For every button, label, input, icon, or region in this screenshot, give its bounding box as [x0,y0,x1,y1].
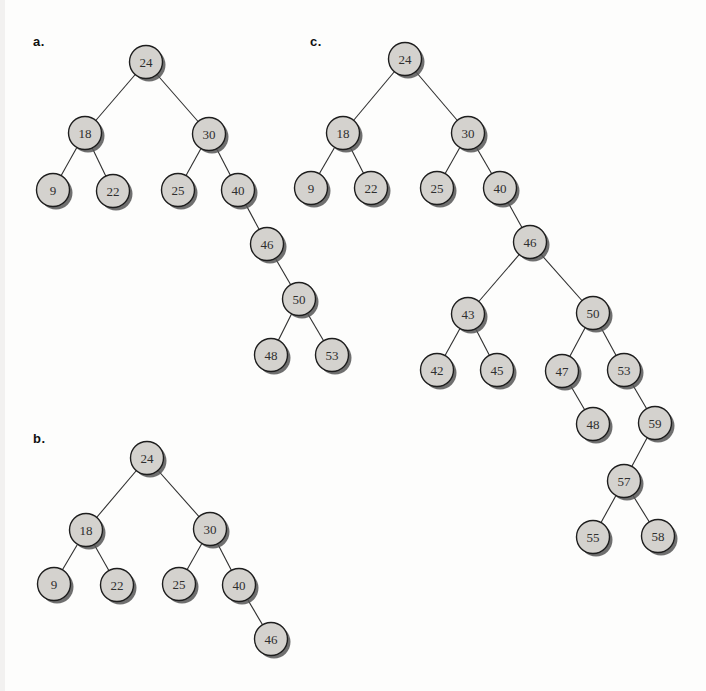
tree-node: 22 [355,172,391,208]
node-value: 24 [399,52,413,67]
tree-node: 45 [481,354,517,390]
node-value: 53 [326,348,339,363]
tree-node: 9 [37,174,73,210]
node-value: 50 [587,306,600,321]
tree-node: 25 [163,568,199,604]
node-value: 25 [172,183,185,198]
tree-node: 25 [421,172,457,208]
node-value: 59 [649,416,662,431]
tree-node: 48 [577,408,613,444]
node-value: 46 [261,237,275,252]
tree-diagram-canvas: 2418309222540465048532418309222540462418… [0,0,706,691]
node-value: 40 [233,578,246,593]
tree-node: 24 [130,46,166,82]
tree-node: 43 [452,298,488,334]
tree-node: 18 [327,117,363,153]
node-value: 40 [232,183,245,198]
tree-c: 2418309222540464350424547534859575558 [295,43,678,557]
node-value: 47 [556,364,570,379]
tree-node: 46 [514,226,550,262]
tree-node: 40 [222,174,258,210]
tree-node: 9 [38,568,74,604]
node-value: 18 [80,523,93,538]
node-value: 55 [587,530,600,545]
tree-node: 53 [316,339,352,375]
node-value: 22 [107,184,120,199]
figure-label-a: a. [33,34,45,49]
tree-a: 241830922254046504853 [37,46,352,375]
tree-b: 241830922254046 [38,442,291,659]
node-value: 50 [293,292,306,307]
node-value: 18 [337,126,350,141]
node-value: 45 [491,363,504,378]
node-value: 9 [308,181,315,196]
tree-node: 9 [295,172,331,208]
tree-node: 42 [421,354,457,390]
tree-node: 57 [608,465,644,501]
node-value: 46 [524,235,538,250]
node-value: 9 [50,183,57,198]
tree-node: 40 [223,569,259,605]
scanned-figure-page: 2418309222540465048532418309222540462418… [0,0,706,691]
figure-label-c: c. [310,34,322,49]
node-value: 46 [265,632,279,647]
tree-node: 22 [101,569,137,605]
tree-node: 46 [255,623,291,659]
tree-node: 55 [577,521,613,557]
node-value: 18 [79,126,92,141]
node-value: 24 [141,451,155,466]
node-value: 48 [265,348,278,363]
tree-node: 58 [642,520,678,556]
tree-node: 48 [255,339,291,375]
tree-node: 59 [639,407,675,443]
node-value: 43 [462,307,475,322]
node-value: 22 [365,181,378,196]
node-value: 25 [173,577,186,592]
node-value: 53 [618,363,631,378]
node-value: 24 [140,55,154,70]
node-value: 42 [431,363,444,378]
tree-node: 18 [70,514,106,550]
node-value: 58 [652,529,665,544]
tree-node: 47 [546,355,582,391]
tree-node: 22 [97,175,133,211]
tree-node: 50 [283,283,319,319]
tree-node: 53 [608,354,644,390]
figure-label-b: b. [33,431,46,446]
node-value: 57 [618,474,632,489]
tree-node: 24 [131,442,167,478]
node-value: 25 [431,181,444,196]
tree-node: 30 [193,118,229,154]
node-value: 30 [203,127,216,142]
tree-node: 25 [162,174,198,210]
tree-node: 18 [69,117,105,153]
tree-node: 50 [577,297,613,333]
tree-node: 30 [452,117,488,153]
node-value: 48 [587,417,600,432]
tree-node: 46 [251,228,287,264]
tree-node: 40 [484,172,520,208]
node-value: 22 [111,578,124,593]
node-value: 30 [204,522,217,537]
node-value: 40 [494,181,507,196]
tree-node: 30 [194,513,230,549]
node-value: 9 [51,577,58,592]
node-value: 30 [462,126,475,141]
